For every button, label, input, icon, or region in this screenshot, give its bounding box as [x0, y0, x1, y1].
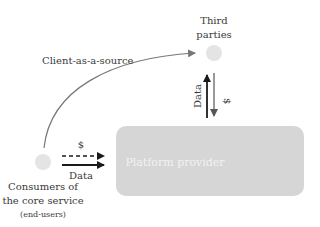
- consumer-data-label: Data: [69, 170, 93, 181]
- client-as-source-label: Client-as-a-source: [42, 55, 134, 66]
- diagram-canvas: Platform provider Third parties Consumer…: [0, 0, 320, 227]
- third-parties-label-line1: Third: [200, 15, 228, 26]
- third-party-money-label: $: [222, 98, 233, 104]
- third-parties-label-line2: parties: [196, 29, 231, 40]
- consumers-label-line3: (end-users): [20, 210, 66, 219]
- platform-provider-label: Platform provider: [125, 156, 225, 169]
- consumers-label-line1: Consumers of: [8, 181, 79, 192]
- third-party-data-label: Data: [192, 84, 203, 108]
- third-parties-node: [206, 45, 222, 61]
- consumers-label-line2: the core service: [2, 195, 83, 206]
- consumer-money-label: $: [78, 139, 84, 150]
- consumers-node: [35, 154, 51, 170]
